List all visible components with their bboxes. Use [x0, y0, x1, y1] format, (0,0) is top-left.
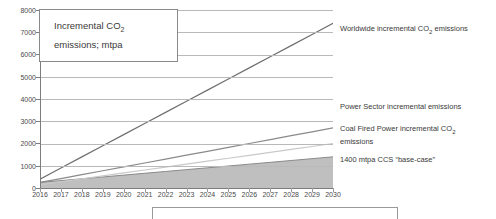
bottom-cutoff-box [152, 207, 398, 219]
x-tick-label: 2020 [116, 191, 132, 199]
x-tick-label: 2021 [137, 191, 153, 199]
label-worldwide-text: Worldwide incremental CO [340, 24, 429, 33]
y-tick-label: 3000 [2, 118, 36, 125]
x-tick-label: 2016 [32, 191, 48, 199]
y-tick-label: 8000 [2, 7, 36, 14]
grid-line [40, 166, 333, 167]
x-tick-label: 2027 [262, 191, 278, 199]
y-tick-label: 2000 [2, 140, 36, 147]
x-tick-label: 2019 [95, 191, 111, 199]
label-worldwide-emissions: Worldwide incremental CO2 emissions [340, 24, 496, 37]
y-tick-label: 1000 [2, 163, 36, 170]
chart-title-box: Incremental CO2 emissions; mtpa [39, 9, 178, 62]
chart-title-text-1: Incremental CO [54, 20, 121, 31]
x-tick-label: 2024 [200, 191, 216, 199]
y-tick-label: 0 [2, 185, 36, 192]
x-tick-label: 2017 [53, 191, 69, 199]
x-tick-label: 2028 [283, 191, 299, 199]
label-ccs-base-case: 1400 mtpa CCS “base-case” [340, 155, 496, 165]
x-tick-label: 2018 [74, 191, 90, 199]
chart-container: 8000 7000 6000 5000 4000 3000 2000 1000 … [0, 0, 496, 219]
y-tick-label: 5000 [2, 74, 36, 81]
grid-line [40, 77, 333, 78]
label-coal-text-2: emissions [340, 137, 373, 146]
x-tick-label: 2023 [179, 191, 195, 199]
x-tick-label: 2029 [304, 191, 320, 199]
y-tick-label: 7000 [2, 29, 36, 36]
label-coal-text: Coal Fired Power incremental CO [340, 124, 452, 133]
x-tick-label: 2025 [221, 191, 237, 199]
y-tick-label: 6000 [2, 51, 36, 58]
chart-title-line-1: Incremental CO2 [54, 18, 163, 38]
x-tick-label: 2026 [241, 191, 257, 199]
subscript-2: 2 [452, 129, 455, 135]
label-coal-fired-power: Coal Fired Power incremental CO2 emissio… [340, 124, 496, 147]
label-power-sector: Power Sector incremental emissions [340, 102, 496, 112]
grid-line [40, 144, 333, 145]
chart-title-line-2: emissions; mtpa [54, 37, 163, 53]
grid-line [40, 121, 333, 122]
x-tick-label: 2022 [158, 191, 174, 199]
y-tick-label: 4000 [2, 96, 36, 103]
label-worldwide-text-2: emissions [432, 24, 467, 33]
grid-line [40, 99, 333, 100]
x-tick-label: 2030 [325, 191, 341, 199]
ccs-base-case-area [40, 157, 333, 188]
subscript-2: 2 [121, 25, 125, 32]
y-axis-tick-labels: 8000 7000 6000 5000 4000 3000 2000 1000 … [0, 0, 36, 200]
